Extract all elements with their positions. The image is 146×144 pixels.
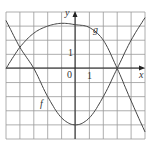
chart-plot <box>0 0 146 144</box>
x-axis-label: x <box>139 70 143 80</box>
x-tick-1-label: 1 <box>87 71 92 81</box>
y-axis-label: y <box>65 8 69 18</box>
curve-f-label: f <box>40 99 43 109</box>
origin-label: 0 <box>67 70 72 80</box>
y-tick-1-label: 1 <box>68 48 73 58</box>
axes <box>6 11 145 139</box>
curve-g-label: g <box>93 25 98 35</box>
